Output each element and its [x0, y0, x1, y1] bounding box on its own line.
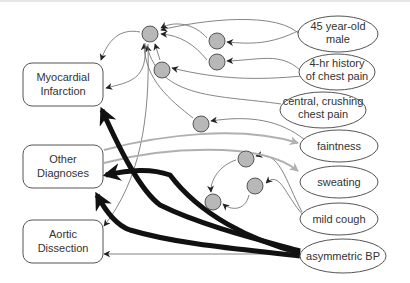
finding-age-line1: 45 year-old [310, 20, 365, 32]
finding-sweating-label: sweating [317, 176, 360, 188]
hidden-nodes [142, 26, 263, 210]
finding-sweating[interactable]: sweating [300, 166, 378, 198]
finding-cough[interactable]: mild cough [300, 203, 378, 235]
finding-faintness[interactable]: faintness [300, 130, 378, 162]
hidden-node-8[interactable] [205, 194, 221, 210]
finding-history-line1: 4-hr history [309, 57, 365, 69]
diagnosis-other-line2: Diagnoses [37, 167, 89, 179]
finding-age-line2: male [326, 33, 350, 45]
hidden-node-hub[interactable] [142, 26, 158, 42]
finding-pain[interactable]: central, crushing chest pain [280, 92, 366, 128]
diagnosis-other[interactable]: Other Diagnoses [23, 145, 103, 188]
hidden-node-7[interactable] [247, 178, 263, 194]
finding-faintness-label: faintness [317, 140, 362, 152]
hidden-node-4[interactable] [154, 62, 170, 78]
finding-bp[interactable]: asymmetric BP [300, 239, 386, 273]
causal-diagram: Myocardial Infarction Other Diagnoses Ao… [0, 0, 410, 283]
finding-bp-label: asymmetric BP [306, 250, 380, 262]
finding-history-line2: of chest pain [306, 70, 368, 82]
diagnosis-mi[interactable]: Myocardial Infarction [23, 63, 103, 106]
finding-age[interactable]: 45 year-old male [298, 16, 378, 52]
diagnosis-ad-line1: Aortic [49, 228, 78, 240]
hidden-node-6[interactable] [238, 151, 254, 167]
diagnosis-ad[interactable]: Aortic Dissection [23, 220, 103, 263]
diagnosis-ad-line2: Dissection [38, 242, 89, 254]
hidden-node-age[interactable] [209, 33, 225, 49]
hidden-node-faint[interactable] [193, 116, 209, 132]
finding-pain-line1: central, crushing [283, 95, 364, 107]
finding-cough-label: mild cough [312, 213, 365, 225]
gray-edges [104, 133, 298, 171]
finding-history[interactable]: 4-hr history of chest pain [299, 54, 375, 90]
diagnosis-mi-line2: Infarction [40, 85, 85, 97]
diagnosis-other-line1: Other [49, 153, 77, 165]
hidden-node-history[interactable] [209, 54, 225, 70]
diagnosis-mi-line1: Myocardial [36, 71, 89, 83]
finding-pain-line2: chest pain [298, 108, 348, 120]
